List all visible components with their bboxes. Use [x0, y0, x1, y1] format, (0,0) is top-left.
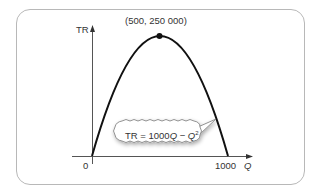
y-axis	[90, 25, 95, 164]
chart-plot	[0, 0, 315, 192]
equation-text: TR = 1000Q − Q2	[125, 130, 199, 141]
x-axis	[72, 154, 253, 159]
x-axis-label: Q	[244, 161, 251, 171]
x-max-tick-label: 1000	[215, 161, 236, 171]
y-axis-arrow-icon	[90, 25, 95, 32]
origin-tick-label: 0	[83, 161, 88, 171]
equation-minus: −	[177, 130, 188, 141]
peak-marker	[157, 33, 163, 39]
equation-exponent: 2	[195, 130, 198, 136]
y-axis-label: TR	[76, 25, 89, 35]
x-axis-arrow-icon	[246, 154, 253, 159]
equation-prefix: TR = 1000	[125, 130, 170, 141]
equation-q: Q	[170, 130, 177, 141]
peak-label: (500, 250 000)	[125, 16, 187, 26]
